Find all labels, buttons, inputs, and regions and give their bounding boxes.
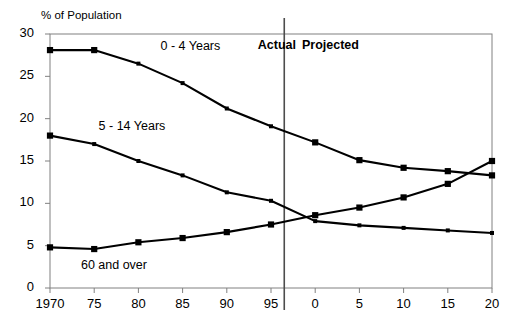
- y-tick-label: 30: [8, 25, 34, 40]
- series-marker-0: [181, 81, 185, 85]
- series-marker-0: [47, 47, 53, 53]
- series-marker-2: [268, 221, 274, 227]
- series-label-0: 0 - 4 Years: [161, 39, 221, 53]
- plot-frame: [50, 34, 492, 288]
- series-marker-2: [445, 181, 451, 187]
- y-tick-label: 10: [8, 194, 34, 209]
- series-marker-0: [91, 47, 97, 53]
- series-marker-1: [47, 133, 53, 139]
- series-line-1: [50, 136, 492, 233]
- series-marker-0: [401, 165, 407, 171]
- series-line-2: [50, 161, 492, 249]
- series-marker-0: [225, 107, 229, 111]
- y-tick-label: 20: [8, 110, 34, 125]
- series-line-0: [50, 50, 492, 175]
- series-marker-1: [357, 223, 361, 227]
- series-marker-1: [490, 231, 494, 235]
- series-label-1: 5 - 14 Years: [99, 119, 166, 133]
- series-marker-1: [181, 173, 185, 177]
- series-marker-2: [312, 212, 318, 218]
- series-marker-1: [313, 219, 317, 223]
- series-marker-2: [135, 239, 141, 245]
- series-marker-0: [269, 124, 273, 128]
- series-marker-2: [489, 158, 495, 164]
- series-marker-2: [47, 244, 53, 250]
- series-marker-1: [136, 159, 140, 163]
- series-marker-0: [356, 157, 362, 163]
- series-marker-1: [225, 190, 229, 194]
- x-tick-label: 20: [462, 296, 516, 311]
- series-label-2: 60 and over: [81, 258, 147, 272]
- actual-label: Actual: [258, 38, 296, 52]
- series-marker-0: [136, 62, 140, 66]
- y-tick-label: 0: [8, 279, 34, 294]
- series-marker-1: [446, 228, 450, 232]
- series-marker-0: [489, 172, 495, 178]
- series-marker-0: [312, 139, 318, 145]
- y-tick-label: 15: [8, 152, 34, 167]
- series-marker-2: [91, 246, 97, 252]
- series-marker-1: [269, 199, 273, 203]
- series-marker-1: [92, 142, 96, 146]
- series-marker-2: [356, 204, 362, 210]
- y-tick-label: 25: [8, 67, 34, 82]
- series-marker-2: [401, 194, 407, 200]
- projected-label: Projected: [302, 38, 359, 52]
- y-tick-label: 5: [8, 237, 34, 252]
- population-line-chart: % of Population 051015202530 19707580859…: [0, 0, 516, 329]
- series-marker-2: [180, 235, 186, 241]
- series-marker-1: [402, 226, 406, 230]
- series-marker-2: [224, 229, 230, 235]
- series-marker-0: [445, 168, 451, 174]
